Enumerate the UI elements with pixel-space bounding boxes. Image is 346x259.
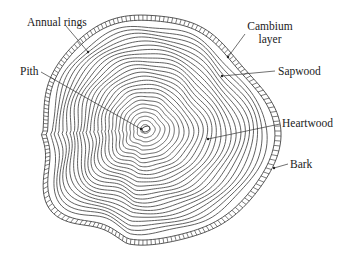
bark-label-line: Bark <box>290 158 313 170</box>
heartwood-label: Heartwood <box>282 117 333 129</box>
cambium-layer-arrowhead-icon <box>227 56 229 58</box>
annual-rings-arrowhead-icon <box>87 51 89 53</box>
background <box>0 0 346 259</box>
tree-cross-section-diagram: Annual ringsPithCambiumlayerSapwoodHeart… <box>0 0 346 259</box>
annual-rings-label-line: Annual rings <box>27 16 87 29</box>
pith-label-line: Pith <box>20 65 39 77</box>
bark-label: Bark <box>290 158 313 170</box>
bark-arrowhead-icon <box>273 167 275 169</box>
sapwood-label: Sapwood <box>278 65 321 78</box>
heartwood-arrowhead-icon <box>207 138 209 140</box>
bark-hatch-tick <box>44 120 49 121</box>
cambium-layer-label-line: layer <box>259 33 282 46</box>
pith-label: Pith <box>20 65 39 77</box>
annual-rings-label: Annual rings <box>27 16 87 29</box>
cambium-layer-label-line: Cambium <box>247 20 292 32</box>
sapwood-label-line: Sapwood <box>278 65 321 78</box>
heartwood-label-line: Heartwood <box>282 117 333 129</box>
sapwood-arrowhead-icon <box>221 75 223 77</box>
pith-arrowhead-icon <box>140 128 142 130</box>
